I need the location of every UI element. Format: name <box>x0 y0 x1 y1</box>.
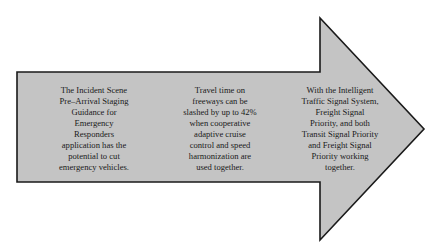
freeway-travel-time-text: Travel time on freeways can be slashed b… <box>170 85 270 173</box>
incident-scene-staging-text: The Incident Scene Pre–Arrival Staging G… <box>46 85 142 173</box>
intelligent-traffic-signal-text: With the Intelligent Traffic Signal Syst… <box>288 85 392 173</box>
